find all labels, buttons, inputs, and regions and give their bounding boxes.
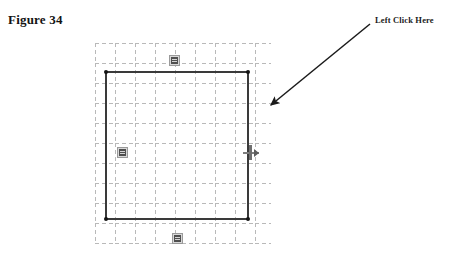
dimension-badge-icon <box>119 149 126 156</box>
grip-arrow-icon <box>254 149 259 157</box>
dimension-badge-left[interactable] <box>117 147 128 158</box>
vertex-handle-bottom-right[interactable] <box>246 217 250 221</box>
cad-drawing-canvas[interactable] <box>95 43 271 244</box>
page-title: Figure 34 <box>8 12 63 28</box>
drawn-rectangle[interactable] <box>105 71 249 220</box>
vertex-handle-bottom-left[interactable] <box>104 217 108 221</box>
screenshot-stage: Figure 34 <box>0 0 465 262</box>
grip-vertical-bar <box>249 145 252 160</box>
right-edge-grip-handle[interactable] <box>243 145 259 160</box>
dimension-badge-icon <box>171 57 178 64</box>
dimension-badge-icon <box>174 235 181 242</box>
dimension-badge-bottom[interactable] <box>172 233 183 244</box>
annotation-label: Left Click Here <box>375 15 434 26</box>
dimension-badge-top[interactable] <box>169 55 180 66</box>
vertex-handle-top-left[interactable] <box>104 70 108 74</box>
vertex-handle-top-right[interactable] <box>246 70 250 74</box>
